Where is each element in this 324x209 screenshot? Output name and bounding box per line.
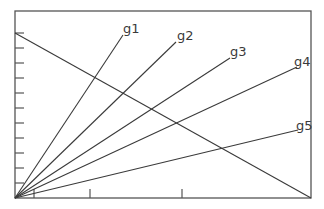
chart: g1 g2 g3 g4 g5 (0, 0, 324, 209)
series-g4-label: g4 (294, 54, 311, 69)
series-g4-line (15, 67, 297, 198)
series-g1-line (15, 35, 123, 198)
series-g5-line (15, 130, 298, 198)
y-axis-ticks (15, 33, 24, 183)
plot-frame (15, 11, 311, 198)
series-g2-line (15, 42, 176, 198)
diagonal-line (15, 33, 311, 198)
series-g5-label: g5 (296, 118, 313, 133)
x-axis-ticks (34, 189, 182, 198)
series-g3-line (15, 58, 230, 198)
series-g3-label: g3 (230, 44, 247, 59)
series-g2-label: g2 (177, 28, 194, 43)
series-g1-label: g1 (123, 21, 140, 36)
